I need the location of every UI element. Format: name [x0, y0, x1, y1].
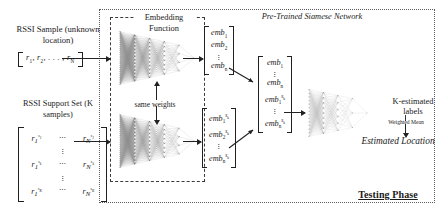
arrow-sample-to-embedding [62, 58, 110, 59]
testing-phase-label: Testing Phase [344, 189, 432, 200]
same-weights-label: same weights [122, 100, 188, 110]
matrix-row: r1sK ⋯ rNsK [28, 183, 97, 199]
embedding-vector-query: emb1 emb2 ⋮ embn [204, 26, 234, 75]
matrix-row: r1s1 ⋯ rNs1 [28, 130, 97, 146]
rssi-sample-title: RSSI Sample (unknown location) [8, 24, 108, 46]
arrow-concat-to-siamese [284, 112, 305, 113]
estimated-location-label: Estimated Location [352, 136, 444, 146]
arrow-weighted-mean-down [405, 124, 406, 133]
siamese-network-title: Pre-Trained Siamese Network [258, 12, 366, 23]
embedding-vector-concatenated: emb1 ⋮ embn emb1sk ⋮ embnsk [258, 56, 292, 133]
arrow-support-to-embedding [74, 141, 110, 142]
matrix-row: r1sk ⋯ rNsk [28, 156, 97, 172]
matrix-vdots: ⋮ [28, 174, 97, 180]
arrow-same-weights-up [156, 86, 157, 100]
k-estimated-labels: K-estimated labels [384, 97, 442, 117]
siamese-comparison-network [305, 88, 371, 138]
arrow-embedding-to-emb-bottom [183, 141, 201, 142]
rssi-sample-vector: r1, r2, . . . , rN [18, 52, 83, 67]
embedding-vector-support: emb1sk emb2sk ⋮ embnsk [202, 108, 236, 168]
rssi-support-set-matrix: r1s1 ⋯ rNs1 ⋮ r1sk ⋯ rNsk ⋮ r1sK ⋯ rNsK [18, 127, 107, 202]
matrix-vdots: ⋮ [28, 148, 97, 154]
rssi-support-set-title: RSSI Support Set (K samples) [10, 99, 106, 120]
arrow-embedding-to-emb-top [183, 58, 203, 59]
